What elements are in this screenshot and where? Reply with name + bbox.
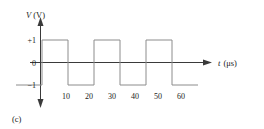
x-tick-label-20: 20 (85, 92, 93, 101)
x-axis-title-variable: t (218, 58, 221, 68)
x-tick-label-60: 60 (177, 92, 185, 101)
y-tick-label-zero: 0 (32, 59, 36, 68)
y-axis-title-variable: V (26, 10, 33, 20)
y-axis-arrow-down-icon (38, 99, 44, 108)
x-axis-arrow-right-icon (203, 60, 212, 66)
x-axis-title-unit: (μs) (223, 58, 237, 68)
x-tick-label-10: 10 (62, 92, 70, 101)
x-axis-title: t(μs) (218, 58, 237, 68)
y-axis-title: V(V) (26, 10, 45, 20)
x-tick-label-50: 50 (154, 92, 162, 101)
square-wave-chart: +1 0 −1 10 20 30 40 50 60 V(V) t(μs) (c) (0, 0, 264, 129)
x-tick-label-40: 40 (131, 92, 139, 101)
x-tick-label-30: 30 (108, 92, 116, 101)
y-axis-title-unit: (V) (33, 10, 45, 20)
y-tick-label-plus-one: +1 (27, 36, 36, 45)
figure-caption: (c) (12, 114, 22, 124)
y-tick-label-minus-one: −1 (27, 81, 36, 90)
x-axis (30, 60, 212, 66)
